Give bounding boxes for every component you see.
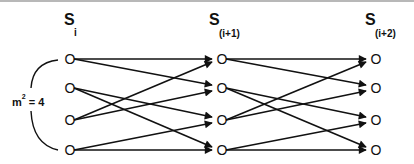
transition-arrow [74,88,212,117]
edges [74,59,366,150]
state-node: O [217,80,228,96]
transition-arrow [74,62,212,120]
state-node: O [217,142,228,158]
transition-arrow [226,59,366,85]
state-transition-diagram: OOOOOOOOOOOO [0,0,414,164]
transition-arrow [226,91,366,120]
state-node: O [65,112,76,128]
state-node: O [65,51,76,67]
transition-arrow [74,59,212,85]
transition-arrow [226,62,366,120]
transition-arrow [226,88,366,117]
transition-arrow [226,88,366,147]
state-node: O [217,112,228,128]
state-node: O [371,80,382,96]
group-bracket [31,60,58,150]
transition-arrow [74,91,212,120]
transition-arrow [74,123,212,150]
state-node: O [217,51,228,67]
state-node: O [65,142,76,158]
state-node: O [371,142,382,158]
state-node: O [371,51,382,67]
state-node: O [371,112,382,128]
state-node: O [65,80,76,96]
transition-arrow [226,123,366,150]
transition-arrow [74,88,212,147]
